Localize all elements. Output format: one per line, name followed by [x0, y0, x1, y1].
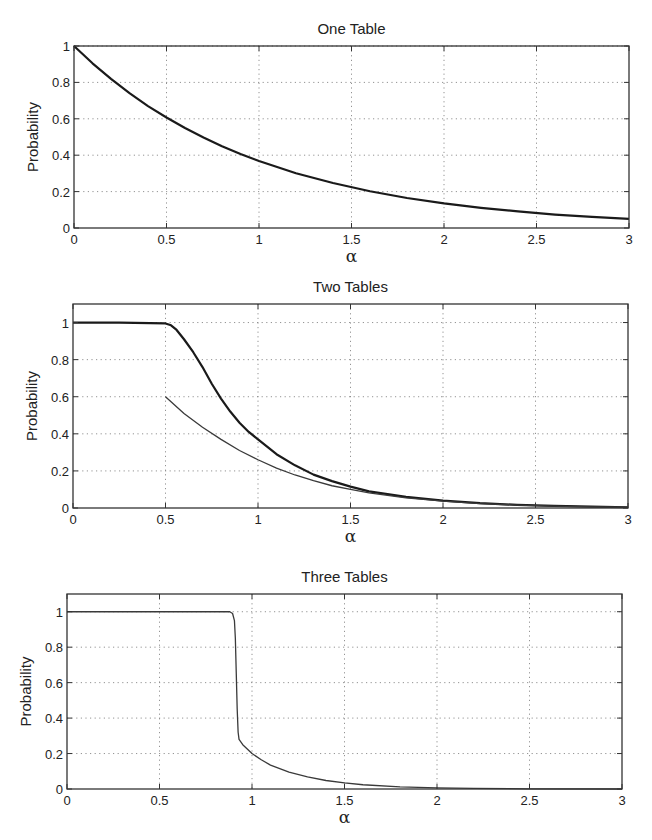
x-tick-label: 3 — [618, 793, 625, 808]
y-tick-label: 0.6 — [45, 676, 63, 691]
x-tick-label: 2 — [433, 793, 440, 808]
y-tick-label: 0.8 — [45, 640, 63, 655]
x-tick-label: 0.5 — [157, 232, 175, 247]
x-tick-label: 1.5 — [335, 793, 353, 808]
y-tick-label: 0.8 — [52, 75, 70, 90]
panel-one-table: One Table 00.511.522.5300.20.40.60.81αPr… — [24, 20, 633, 266]
x-axis-label: α — [346, 246, 358, 266]
x-tick-label: 0 — [69, 512, 76, 527]
x-tick-label: 1.5 — [342, 232, 360, 247]
y-axis-label: Probability — [17, 656, 34, 727]
y-tick-label: 0.4 — [51, 427, 69, 442]
x-axis-label: α — [339, 807, 351, 827]
y-tick-label: 1 — [56, 605, 63, 620]
y-tick-label: 1 — [62, 316, 69, 331]
y-tick-label: 0.2 — [52, 185, 70, 200]
axes-frame — [74, 46, 629, 228]
data-curve — [166, 397, 629, 508]
x-tick-label: 1 — [255, 232, 262, 247]
y-tick-label: 0.6 — [52, 112, 70, 127]
x-tick-label: 2.5 — [526, 512, 544, 527]
panel-title: Three Tables — [301, 568, 387, 585]
x-tick-label: 0 — [70, 232, 77, 247]
y-tick-label: 1 — [63, 39, 70, 54]
x-tick-label: 2.5 — [520, 793, 538, 808]
y-tick-label: 0 — [56, 782, 63, 797]
x-tick-label: 2.5 — [527, 232, 545, 247]
x-tick-label: 1 — [248, 793, 255, 808]
y-tick-label: 0.4 — [52, 148, 70, 163]
data-curve — [74, 46, 629, 219]
x-tick-label: 3 — [624, 512, 631, 527]
panel-three-tables: Three Tables 00.511.522.5300.20.40.60.81… — [17, 568, 626, 827]
y-tick-label: 0.8 — [51, 353, 69, 368]
y-tick-label: 0 — [63, 221, 70, 236]
y-tick-label: 0.6 — [51, 390, 69, 405]
y-tick-label: 0.4 — [45, 711, 63, 726]
x-tick-label: 0 — [63, 793, 70, 808]
x-tick-label: 2 — [439, 512, 446, 527]
x-tick-label: 0.5 — [150, 793, 168, 808]
figure-canvas: One Table 00.511.522.5300.20.40.60.81αPr… — [0, 0, 652, 840]
x-tick-label: 1 — [254, 512, 261, 527]
x-axis-label: α — [345, 526, 357, 546]
y-tick-label: 0.2 — [45, 747, 63, 762]
y-tick-label: 0 — [62, 501, 69, 516]
panel-two-tables: Two Tables 00.511.522.5300.20.40.60.81αP… — [23, 278, 632, 546]
y-axis-label: Probability — [23, 370, 40, 441]
x-tick-label: 3 — [625, 232, 632, 247]
y-axis-label: Probability — [24, 101, 41, 172]
panel-title: One Table — [317, 20, 385, 37]
x-tick-label: 1.5 — [341, 512, 359, 527]
y-tick-label: 0.2 — [51, 464, 69, 479]
panel-title: Two Tables — [313, 278, 388, 295]
x-tick-label: 0.5 — [156, 512, 174, 527]
x-tick-label: 2 — [440, 232, 447, 247]
